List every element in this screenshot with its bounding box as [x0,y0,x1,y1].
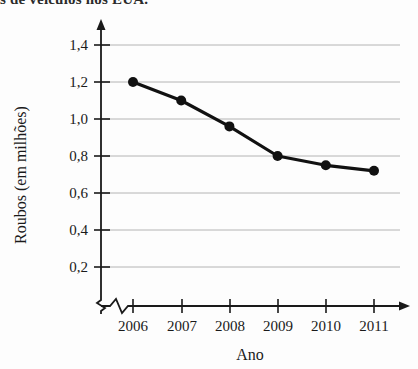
y-ticks [94,45,110,267]
data-point [176,96,186,106]
y-tick-label: 0,4 [69,222,88,238]
x-tick-label: 2010 [311,318,341,334]
data-line [133,82,374,171]
y-tick-label: 1,4 [69,37,88,53]
x-tick-label: 2007 [167,318,198,334]
x-axis [101,299,410,313]
data-point [321,160,331,170]
data-point [369,166,379,176]
line-chart: 1,4 1,2 1,0 0,8 0,6 0,4 0,2 Roubos (em m… [0,0,418,369]
data-point [273,151,283,161]
data-point [128,77,138,87]
x-tick-label: 2009 [263,318,293,334]
x-axis-title: Ano [236,346,264,363]
y-tick-label: 1,2 [69,74,88,90]
data-markers [128,77,379,176]
x-tick-label: 2006 [118,318,149,334]
gridlines [101,45,400,267]
y-axis [97,19,106,314]
chart-figure: s de veículos nos EUA. [0,0,418,369]
x-tick-label: 2008 [215,318,245,334]
y-tick-labels: 1,4 1,2 1,0 0,8 0,6 0,4 0,2 [69,37,88,275]
x-tick-label: 2011 [359,318,388,334]
y-axis-title: Roubos (em milhões) [12,106,30,244]
y-tick-label: 0,8 [69,148,88,164]
x-tick-labels: 2006 2007 2008 2009 2010 2011 [118,318,389,334]
data-point [224,121,234,131]
y-tick-label: 0,2 [69,259,88,275]
y-tick-label: 0,6 [69,185,88,201]
y-tick-label: 1,0 [69,111,88,127]
